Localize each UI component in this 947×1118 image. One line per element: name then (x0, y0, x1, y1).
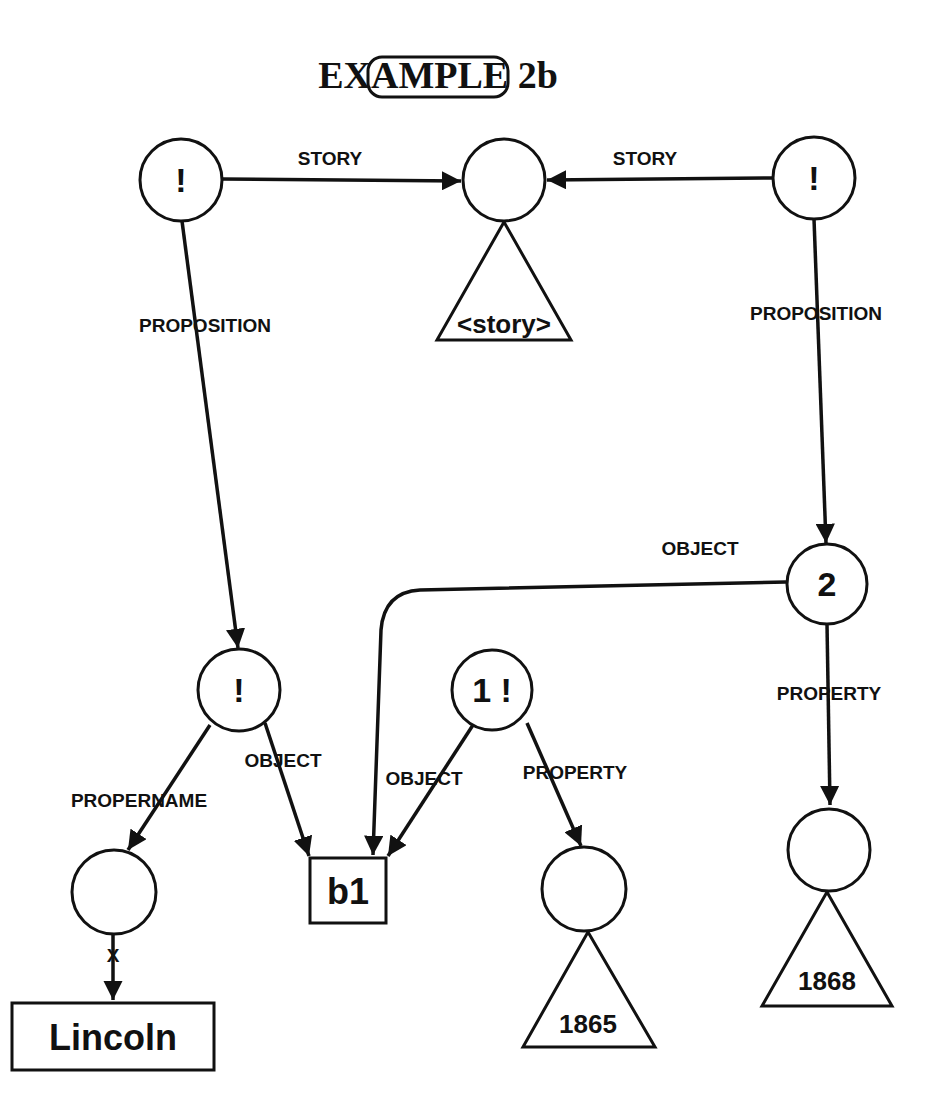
svg-text:PROPERTY: PROPERTY (777, 683, 882, 704)
node-2: 2 (787, 544, 867, 624)
svg-text:STORY: STORY (298, 148, 363, 169)
edge-object-mid: OBJECT (244, 723, 321, 856)
semantic-network-diagram: EXAMPLE 2b STORY STORY PROPOSITION PROPO… (0, 0, 947, 1118)
svg-text:OBJECT: OBJECT (244, 750, 321, 771)
svg-text:!: ! (808, 159, 819, 197)
edge-story-left: STORY (222, 148, 461, 181)
svg-text:2: 2 (818, 565, 837, 603)
svg-text:X: X (107, 945, 120, 966)
svg-text:!: ! (175, 161, 186, 199)
svg-text:STORY: STORY (613, 148, 678, 169)
edge-object-from-2: OBJECT (373, 538, 786, 855)
node-name (72, 850, 156, 934)
svg-text:OBJECT: OBJECT (661, 538, 738, 559)
node-story: <story> (437, 139, 571, 340)
story-subtree-label: <story> (457, 309, 551, 339)
svg-text:Lincoln: Lincoln (49, 1017, 177, 1058)
title-text: EXAMPLE 2b (318, 54, 558, 96)
svg-text:b1: b1 (327, 871, 369, 912)
title-box: EXAMPLE 2b (318, 54, 558, 97)
svg-text:1 !: 1 ! (472, 671, 512, 709)
edge-object-from-1: OBJECT (385, 725, 473, 856)
edge-property-from-2: PROPERTY (777, 624, 882, 805)
edge-lex: X (107, 934, 120, 1000)
node-1865: 1865 (523, 847, 655, 1047)
edge-property-from-1: PROPERTY (523, 723, 628, 846)
lincoln-box: Lincoln (12, 1003, 214, 1070)
node-1: 1 ! (452, 650, 532, 730)
b1-box: b1 (310, 858, 386, 923)
svg-text:1868: 1868 (798, 966, 856, 996)
svg-text:1865: 1865 (559, 1009, 617, 1039)
edge-proposition-left: PROPOSITION (139, 221, 271, 648)
edge-proposition-right: PROPOSITION (750, 219, 882, 543)
node-top-right: ! (773, 137, 855, 219)
svg-text:OBJECT: OBJECT (385, 768, 462, 789)
svg-text:PROPOSITION: PROPOSITION (139, 315, 271, 336)
node-1868: 1868 (762, 809, 892, 1006)
svg-text:PROPOSITION: PROPOSITION (750, 303, 882, 324)
edge-propername: PROPERNAME (71, 725, 210, 850)
svg-text:!: ! (233, 671, 244, 709)
svg-text:PROPERNAME: PROPERNAME (71, 790, 207, 811)
node-mid-left: ! (198, 649, 280, 731)
node-top-left: ! (140, 139, 222, 221)
svg-text:PROPERTY: PROPERTY (523, 762, 628, 783)
edge-story-right: STORY (547, 148, 773, 180)
